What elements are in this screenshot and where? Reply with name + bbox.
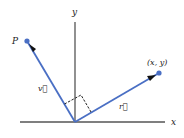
vector-v <box>27 41 75 122</box>
vector-r-label: r⃗ <box>119 102 128 111</box>
x-axis-label: x <box>171 117 176 127</box>
vector-diagram: x y P v⃗ (x, y) r⃗ <box>0 0 184 138</box>
point-xy-label: (x, y) <box>147 58 167 67</box>
y-axis-label: y <box>71 7 78 17</box>
point-p-label: P <box>11 36 19 46</box>
point-p-dot <box>24 38 29 43</box>
point-xy-dot <box>156 70 161 75</box>
vector-r <box>75 73 159 122</box>
vector-v-arrowhead-icon <box>29 44 36 52</box>
vector-v-label: v⃗ <box>38 84 48 93</box>
